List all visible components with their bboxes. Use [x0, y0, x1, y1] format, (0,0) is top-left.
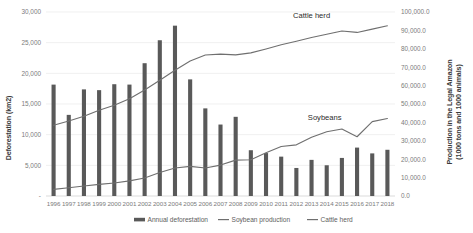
- y-right-tick-label: 90,000.0: [401, 27, 426, 34]
- y-axis-right-title-line1: Production in the Legal Amazon: [446, 59, 454, 164]
- bar: [355, 148, 359, 196]
- bar: [173, 26, 177, 196]
- legend-item-label: Soybean production: [232, 216, 291, 224]
- y-axis-right-title-line2: (1000 tons and 1000 animals): [455, 64, 463, 160]
- y-right-tick-label: 60,000.0: [401, 82, 426, 89]
- x-tick-label: 2001: [123, 200, 137, 207]
- bar: [97, 90, 101, 196]
- bar: [249, 150, 253, 196]
- bar: [309, 160, 313, 196]
- bar: [294, 168, 298, 196]
- y-left-tick-label: 15,000: [21, 100, 41, 107]
- annotations-group: Cattle herdSoybeans: [293, 11, 342, 122]
- x-tick-label: 2015: [335, 200, 349, 207]
- x-tick-label: 2004: [168, 200, 182, 207]
- x-tick-label: 2008: [229, 200, 243, 207]
- y-right-tick-labels: 0.010,000.020,000.030,000.040,000.050,00…: [401, 8, 430, 199]
- x-tick-label: 2007: [214, 200, 228, 207]
- bar: [264, 153, 268, 196]
- y-axis-left-title: Deforestation (km2): [5, 95, 13, 160]
- y-left-tick-label: 25,000: [21, 39, 41, 46]
- bar: [203, 108, 207, 196]
- y-left-tick-label: -: [39, 192, 41, 199]
- y-left-tick-label: 20,000: [21, 70, 41, 77]
- bar: [188, 79, 192, 196]
- x-tick-label: 2005: [183, 200, 197, 207]
- x-tick-label: 2009: [244, 200, 258, 207]
- deforestation-production-chart: -5,00010,00015,00020,00025,00030,000 0.0…: [0, 0, 473, 233]
- bar: [385, 150, 389, 196]
- y-right-tick-label: 80,000.0: [401, 45, 426, 52]
- x-tick-label: 1998: [77, 200, 91, 207]
- bars-group: [52, 26, 390, 196]
- x-tick-label: 2006: [198, 200, 212, 207]
- bar: [143, 63, 147, 196]
- x-tick-label: 2017: [365, 200, 379, 207]
- bar: [370, 153, 374, 196]
- y-left-tick-label: 5,000: [25, 162, 41, 169]
- x-tick-label: 2016: [350, 200, 364, 207]
- y-right-tick-label: 100,000.0: [401, 8, 430, 15]
- x-tick-label: 1997: [62, 200, 76, 207]
- bar: [234, 117, 238, 196]
- bar: [82, 89, 86, 196]
- x-tick-labels: 1996199719981999200020012002200320042005…: [47, 200, 395, 207]
- y-right-tick-label: 10,000.0: [401, 174, 426, 181]
- legend-item-label: Annual deforestation: [148, 216, 209, 223]
- y-right-tick-label: 20,000.0: [401, 156, 426, 163]
- y-right-tick-label: 40,000.0: [401, 119, 426, 126]
- x-tick-label: 2011: [275, 200, 289, 207]
- x-tick-label: 1999: [92, 200, 106, 207]
- y-right-tick-label: 30,000.0: [401, 137, 426, 144]
- x-tick-label: 2002: [138, 200, 152, 207]
- x-tick-label: 2013: [305, 200, 319, 207]
- y-right-tick-label: 50,000.0: [401, 100, 426, 107]
- legend-group: Annual deforestationSoybean productionCa…: [134, 216, 353, 224]
- x-tick-label: 2000: [107, 200, 121, 207]
- bar: [52, 85, 56, 196]
- legend-swatch-bar: [134, 218, 145, 222]
- series-line-cattle-herd: [54, 26, 388, 125]
- y-right-tick-label: 0.0: [401, 192, 410, 199]
- x-tick-label: 2012: [289, 200, 303, 207]
- chart-container: -5,00010,00015,00020,00025,00030,000 0.0…: [0, 0, 473, 233]
- x-tick-label: 2003: [153, 200, 167, 207]
- legend-item-label: Cattle herd: [321, 216, 354, 223]
- y-left-tick-label: 30,000: [21, 8, 41, 15]
- x-tick-label: 2010: [259, 200, 273, 207]
- bar: [67, 115, 71, 196]
- y-right-tick-label: 70,000.0: [401, 64, 426, 71]
- lines-group: [54, 26, 388, 190]
- bar: [112, 84, 116, 196]
- y-left-tick-labels: -5,00010,00015,00020,00025,00030,000: [21, 8, 41, 199]
- bar: [127, 85, 131, 196]
- y-left-tick-label: 10,000: [21, 131, 41, 138]
- x-tick-label: 2018: [381, 200, 395, 207]
- x-tick-label: 2014: [320, 200, 334, 207]
- x-tick-label: 1996: [47, 200, 61, 207]
- bar: [218, 125, 222, 196]
- annotation-label: Cattle herd: [293, 11, 330, 20]
- bar: [279, 157, 283, 196]
- bar: [340, 158, 344, 196]
- bar: [325, 165, 329, 196]
- annotation-label: Soybeans: [308, 113, 342, 122]
